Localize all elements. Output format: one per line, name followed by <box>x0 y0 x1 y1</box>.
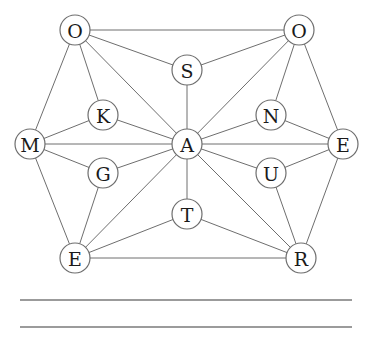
node-letter: O <box>67 20 83 42</box>
node-letter: U <box>263 163 279 185</box>
edge-m-e1 <box>30 144 75 258</box>
node-o2: O <box>284 15 314 45</box>
node-letter: N <box>263 105 280 127</box>
node-u: U <box>256 158 286 188</box>
node-letter: E <box>336 134 350 156</box>
node-k: K <box>88 100 118 130</box>
node-letter: G <box>95 163 110 185</box>
edge-o1-a <box>75 30 187 144</box>
node-letter: E <box>68 248 82 270</box>
edge-a-e1 <box>75 144 187 258</box>
edge-o2-s <box>187 30 299 70</box>
node-g: G <box>88 158 118 188</box>
edge-a-r <box>187 144 301 258</box>
node-letter: M <box>20 134 39 156</box>
edge-e2-r <box>301 144 343 258</box>
edge-t-e1 <box>75 214 187 258</box>
node-o1: O <box>60 15 90 45</box>
edge-o1-s <box>75 30 187 70</box>
node-letter: A <box>179 134 194 156</box>
node-a: A <box>172 129 202 159</box>
node-m: M <box>15 129 45 159</box>
edge-o2-a <box>187 30 299 144</box>
letter-network-diagram: OOSKNMAEGUTER <box>0 0 371 341</box>
node-n: N <box>256 100 286 130</box>
node-letter: K <box>96 105 111 127</box>
node-letter: R <box>294 248 309 270</box>
node-t: T <box>172 199 202 229</box>
edge-t-r <box>187 214 301 258</box>
node-r: R <box>286 243 316 273</box>
node-e2: E <box>328 129 358 159</box>
node-e1: E <box>60 243 90 273</box>
answer-lines-group[interactable] <box>20 300 352 327</box>
edge-o2-e2 <box>299 30 343 144</box>
node-letter: S <box>180 60 193 82</box>
node-letter: T <box>181 204 194 226</box>
node-s: S <box>172 55 202 85</box>
node-letter: O <box>291 20 307 42</box>
edge-o1-m <box>30 30 75 144</box>
